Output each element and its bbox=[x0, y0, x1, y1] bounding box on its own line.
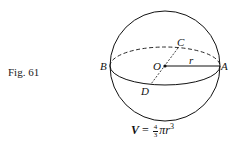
point-o-label: O bbox=[153, 60, 161, 72]
radius-r-label: r bbox=[189, 54, 194, 66]
point-c-label: C bbox=[177, 36, 185, 48]
equator-front bbox=[110, 66, 220, 85]
formula-exponent: 3 bbox=[170, 122, 174, 131]
formula-fraction: 43 bbox=[153, 124, 159, 139]
volume-formula: V = 43πr3 bbox=[131, 122, 174, 139]
formula-equals: = bbox=[142, 123, 149, 137]
fraction-denominator: 3 bbox=[153, 132, 159, 139]
equator-back-dashed bbox=[110, 47, 220, 66]
formula-lhs: V bbox=[131, 123, 139, 137]
point-d-label: D bbox=[140, 85, 149, 97]
sphere-diagram: B A C D O r bbox=[0, 0, 239, 146]
center-point bbox=[163, 64, 166, 67]
point-b-label: B bbox=[100, 60, 107, 72]
point-a-label: A bbox=[220, 60, 228, 72]
